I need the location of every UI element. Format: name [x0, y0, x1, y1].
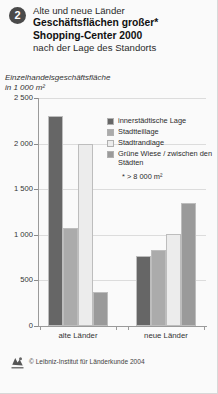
legend-item: innerstädtische Lage [107, 117, 215, 126]
y-axis-tick-label: 500 [1, 276, 33, 284]
bar [181, 203, 196, 326]
legend-label: Grüne Wiese / zwischen den Städten [118, 150, 215, 167]
legend-item: Stadtrandlage [107, 139, 215, 148]
title-line-3: Shopping-Center 2000 [33, 30, 215, 43]
bar [136, 256, 151, 326]
legend-label: Stadtrandlage [118, 139, 164, 148]
y-axis-tick-label: 1 500 [1, 185, 33, 193]
copyright-text: © Leibniz-Institut für Länderkunde 2004 [29, 358, 145, 365]
bar [166, 234, 181, 326]
chart-footer: © Leibniz-Institut für Länderkunde 2004 [0, 355, 218, 381]
y-axis-caption-line-2: in 1 000 m² [5, 83, 155, 93]
title-block: Alte und neue Länder Geschäftsflächen gr… [33, 5, 215, 55]
legend-label: Stadtteillage [118, 128, 159, 137]
x-axis-tick [116, 326, 117, 330]
legend-swatch [107, 129, 114, 136]
y-axis-labels: 05001 0001 5002 0002 500 [0, 93, 33, 333]
bar [78, 144, 93, 326]
title-line-2: Geschäftsflächen großer* [33, 17, 215, 30]
bar [151, 250, 166, 326]
legend-item: Stadtteillage [107, 128, 215, 137]
x-axis-tick [128, 326, 129, 330]
chart-header: 2 Alte und neue Länder Geschäftsflächen … [0, 0, 218, 72]
title-line-1: Alte und neue Länder [33, 5, 215, 17]
figure-number-badge: 2 [9, 7, 26, 24]
x-axis-group-label: alte Länder [38, 331, 118, 340]
chart-legend: innerstädtische LageStadtteillageStadtra… [107, 117, 215, 181]
x-axis-tick [40, 326, 41, 330]
y-axis-tick-label: 2 500 [1, 94, 33, 102]
y-axis-tick-label: 0 [1, 322, 33, 330]
x-axis-group-label: neue Länder [126, 331, 206, 340]
legend-swatch [107, 151, 114, 158]
y-axis-tick-label: 1 000 [1, 231, 33, 239]
legend-swatch [107, 118, 114, 125]
y-axis-caption-line-1: Einzelhandelsgeschäftsfläche [5, 73, 155, 83]
legend-label: innerstädtische Lage [118, 117, 186, 126]
ifl-logo-icon [10, 355, 25, 370]
title-line-4: nach der Lage des Standorts [33, 42, 215, 54]
legend-swatch [107, 140, 114, 147]
bar [48, 116, 63, 326]
chart-card: 2 Alte und neue Länder Geschäftsflächen … [0, 0, 218, 394]
y-axis-tick-label: 2 000 [1, 140, 33, 148]
x-axis-line [38, 326, 207, 327]
y-axis-caption: Einzelhandelsgeschäftsfläche in 1 000 m² [5, 73, 155, 93]
bar [63, 228, 78, 326]
legend-item: Grüne Wiese / zwischen den Städten [107, 150, 215, 167]
x-axis-tick [204, 326, 205, 330]
bar [93, 292, 108, 326]
legend-footnote: * > 8 000 m² [122, 172, 215, 181]
